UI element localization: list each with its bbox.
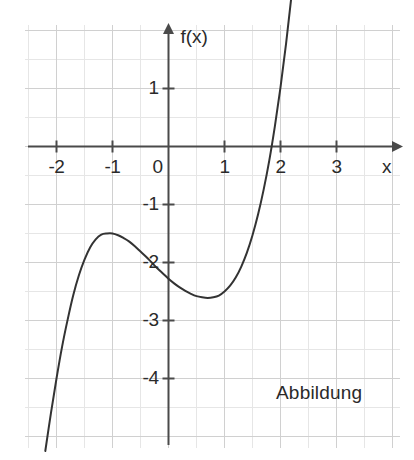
x-tick-label-3: 2	[265, 156, 297, 178]
function-curve	[45, 0, 300, 451]
x-tick-label-0: -2	[41, 156, 73, 178]
y-axis-label: f(x)	[181, 26, 208, 48]
origin-label: 0	[139, 156, 163, 178]
figure-container: -2-11231-1-2-3-40 f(x) x Abbildung	[0, 0, 414, 460]
x-tick-label-2: 1	[209, 156, 241, 178]
x-axis-label: x	[382, 156, 392, 178]
y-tick-label-2: -2	[121, 251, 159, 273]
figure-caption: Abbildung	[276, 382, 362, 404]
x-tick-label-4: 3	[321, 156, 353, 178]
y-tick-label-0: 1	[121, 77, 159, 99]
y-tick-label-3: -3	[121, 309, 159, 331]
y-tick-label-1: -1	[121, 193, 159, 215]
x-tick-label-1: -1	[97, 156, 129, 178]
y-tick-label-4: -4	[121, 367, 159, 389]
